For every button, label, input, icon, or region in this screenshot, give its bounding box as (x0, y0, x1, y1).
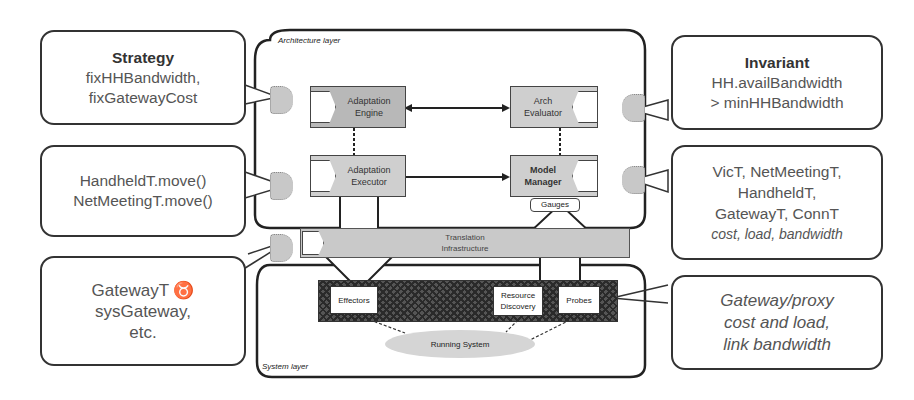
adaptation-executor-label-2: Executor (329, 176, 387, 188)
translation-infrastructure: Translation Infrastructure (300, 228, 630, 258)
binding-blob-icon (622, 166, 645, 194)
model-manager: Model Manager (510, 155, 598, 197)
resource-discovery: Resource Discovery (493, 286, 543, 316)
architecture-layer-label: Architecture layer (278, 36, 340, 45)
adaptation-engine-label-2: Engine (333, 107, 383, 119)
running-system: Running System (385, 330, 535, 358)
invariant-line-1: HH.availBandwidth (712, 73, 843, 93)
probes: Probes (558, 286, 600, 314)
system-layer-label: System layer (262, 362, 308, 371)
resource-discovery-label-2: Discovery (494, 301, 542, 312)
types-callout: VicT, NetMeetingT, HandheldT, GatewayT, … (671, 145, 883, 260)
strategy-callout: Strategy fixHHBandwidth, fixGatewayCost (40, 30, 246, 125)
arch-evaluator: Arch Evaluator (510, 86, 598, 128)
architecture-layer-outline (255, 30, 645, 228)
binding-blob-icon (270, 234, 293, 262)
invariant-line-2: > minHHBandwidth (710, 93, 843, 113)
binding-blob-icon (270, 86, 293, 114)
strategy-title: Strategy (112, 48, 174, 68)
types-line-3: GatewayT, ConnT (715, 203, 839, 224)
monitored-callout: Gateway/proxy cost and load, link bandwi… (671, 275, 883, 370)
strategy-line-1: fixHHBandwidth, (86, 68, 201, 88)
resource-discovery-label-1: Resource (494, 290, 542, 301)
arch-evaluator-label-1: Arch (534, 95, 575, 107)
binding-blob-icon (622, 94, 645, 122)
operators-line-2: NetMeetingT.move() (73, 191, 213, 211)
adaptation-engine: Adaptation Engine (310, 86, 406, 128)
mapping-line-2: sysGateway, (95, 301, 191, 322)
types-line-1: VicT, NetMeetingT, (713, 161, 842, 182)
mapping-line-1: GatewayT ♉ (92, 280, 195, 301)
gauges-box: Gauges (530, 198, 580, 212)
operators-line-1: HandheldT.move() (80, 171, 207, 191)
types-line-2: HandheldT, (738, 182, 816, 203)
monitored-line-1: Gateway/proxy (720, 290, 833, 312)
invariant-title: Invariant (745, 53, 810, 73)
types-line-4: cost, load, bandwidth (711, 224, 843, 245)
effectors: Effectors (330, 286, 378, 314)
monitored-line-2: cost and load, (724, 312, 830, 334)
strategy-line-2: fixGatewayCost (89, 88, 198, 108)
mapping-line-3: etc. (129, 322, 156, 343)
model-manager-label-1: Model (530, 164, 578, 176)
translation-label-1: Translation (301, 232, 629, 243)
operators-callout: HandheldT.move() NetMeetingT.move() (40, 145, 246, 237)
adaptation-executor: Adaptation Executor (310, 155, 406, 197)
translation-label-2: Infrastructure (301, 243, 629, 254)
monitored-line-3: link bandwidth (723, 334, 831, 356)
invariant-callout: Invariant HH.availBandwidth > minHHBandw… (671, 35, 883, 130)
mapping-callout: GatewayT ♉ sysGateway, etc. (40, 256, 246, 366)
binding-blob-icon (270, 172, 293, 200)
